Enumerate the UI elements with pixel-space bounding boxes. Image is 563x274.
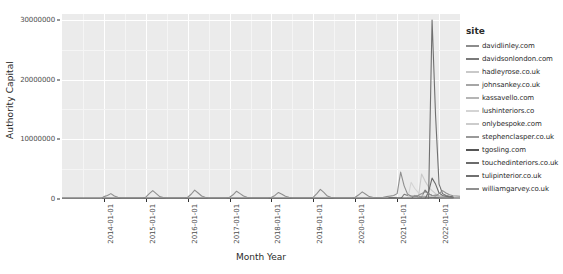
series-line: [62, 20, 453, 199]
series-line: [62, 172, 460, 199]
legend-key-line-icon: [466, 79, 479, 91]
series-line: [62, 182, 439, 199]
legend-key-line-icon: [466, 183, 479, 195]
x-axis-tick-labels: 2014-01-012015-01-012016-01-012017-01-01…: [62, 204, 460, 248]
y-tick-mark: [57, 79, 60, 80]
legend-key-line-icon: [466, 66, 479, 78]
legend-item[interactable]: williamgarvey.co.uk: [466, 182, 562, 195]
y-tick-mark: [57, 19, 60, 20]
x-tick-label: 2015-01-01: [149, 204, 157, 244]
y-tick-label: 0: [51, 195, 55, 203]
y-tick-label: 30000000: [20, 16, 55, 24]
legend-item[interactable]: davidlinley.com: [466, 39, 562, 52]
legend-item[interactable]: hadleyrose.co.uk: [466, 65, 562, 78]
legend-item-label: touchedinteriors.co.uk: [482, 159, 558, 167]
chart-container: Authority Capital 0100000002000000030000…: [0, 0, 563, 274]
legend-key-line-icon: [466, 144, 479, 156]
x-tick-label: 2017-01-01: [233, 204, 241, 244]
legend-key-line-icon: [466, 131, 479, 143]
x-tick-mark: [104, 199, 105, 202]
legend-item[interactable]: kassavello.com: [466, 91, 562, 104]
legend-item-label: hadleyrose.co.uk: [482, 68, 540, 76]
legend-item-label: davidlinley.com: [482, 42, 535, 50]
legend-item[interactable]: stephenclasper.co.uk: [466, 130, 562, 143]
x-tick-mark: [271, 199, 272, 202]
plot-panel: [62, 14, 460, 199]
legend-items: davidlinley.comdavidsonlondon.comhadleyr…: [466, 39, 562, 195]
y-tick-label: 20000000: [20, 76, 55, 84]
y-tick-label: 10000000: [20, 135, 55, 143]
x-axis-title: Month Year: [62, 252, 460, 262]
legend-key-line-icon: [466, 170, 479, 182]
legend-item[interactable]: johnsankey.co.uk: [466, 78, 562, 91]
legend-key-line-icon: [466, 40, 479, 52]
y-axis-title-text: Authority Capital: [5, 61, 15, 139]
x-tick-mark: [439, 199, 440, 202]
x-tick-mark: [188, 199, 189, 202]
x-tick-mark: [397, 199, 398, 202]
legend-item[interactable]: tulipinterior.co.uk: [466, 169, 562, 182]
x-tick-label: 2019-01-01: [316, 204, 324, 244]
y-tick-mark: [57, 199, 60, 200]
legend-key-line-icon: [466, 157, 479, 169]
legend-item-label: williamgarvey.co.uk: [482, 185, 549, 193]
legend-item-label: kassavello.com: [482, 94, 534, 102]
x-tick-mark: [146, 199, 147, 202]
legend-item-label: lushinteriors.co: [482, 107, 534, 115]
x-tick-label: 2016-01-01: [191, 204, 199, 244]
legend-key-line-icon: [466, 105, 479, 117]
legend-key-line-icon: [466, 118, 479, 130]
legend-item[interactable]: lushinteriors.co: [466, 104, 562, 117]
legend-item-label: stephenclasper.co.uk: [482, 133, 554, 141]
legend-title: site: [466, 26, 562, 36]
legend-item[interactable]: onlybespoke.com: [466, 117, 562, 130]
legend-item[interactable]: tgosling.com: [466, 143, 562, 156]
series-line: [62, 174, 450, 199]
y-axis-tick-labels: 0100000002000000030000000: [16, 14, 60, 199]
legend-item-label: davidsonlondon.com: [482, 55, 553, 63]
x-tick-mark: [355, 199, 356, 202]
x-tick-label: 2018-01-01: [274, 204, 282, 244]
plot-lines: [62, 14, 460, 199]
legend-key-line-icon: [466, 53, 479, 65]
legend-item[interactable]: touchedinteriors.co.uk: [466, 156, 562, 169]
legend-item-label: onlybespoke.com: [482, 120, 542, 128]
x-tick-mark: [313, 199, 314, 202]
legend: site davidlinley.comdavidsonlondon.comha…: [466, 26, 562, 195]
x-axis-tick-marks: [62, 199, 460, 203]
x-tick-label: 2020-01-01: [358, 204, 366, 244]
legend-item[interactable]: davidsonlondon.com: [466, 52, 562, 65]
x-tick-label: 2014-01-01: [107, 204, 115, 244]
x-tick-label: 2022-01-01: [442, 204, 450, 244]
y-tick-mark: [57, 139, 60, 140]
legend-key-line-icon: [466, 92, 479, 104]
x-tick-label: 2021-01-01: [400, 204, 408, 244]
legend-item-label: tulipinterior.co.uk: [482, 172, 541, 180]
series-line: [62, 178, 453, 199]
x-tick-mark: [230, 199, 231, 202]
legend-item-label: tgosling.com: [482, 146, 526, 154]
legend-item-label: johnsankey.co.uk: [482, 81, 540, 89]
